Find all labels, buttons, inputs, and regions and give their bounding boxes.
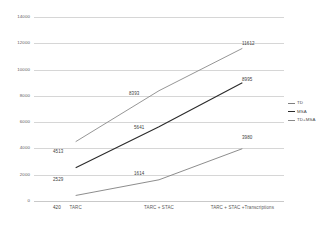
y-axis-tick-label: 0 xyxy=(27,199,30,203)
y-axis-tick-label: 12000 xyxy=(17,41,30,45)
y-axis-tick-label: 6000 xyxy=(20,120,30,124)
data-label: 4513 xyxy=(53,150,63,155)
data-label: 8995 xyxy=(242,78,252,83)
y-axis-tick-label: 10000 xyxy=(17,67,30,71)
legend-item-msa[interactable]: MSA xyxy=(288,110,316,114)
x-axis-tick-label: TARC xyxy=(69,206,81,211)
series-line-msa xyxy=(76,83,243,168)
legend-swatch-icon xyxy=(288,111,295,112)
x-axis-line: 0 xyxy=(34,201,284,202)
legend-label: TD+MSA xyxy=(297,118,316,122)
legend-label: TD xyxy=(297,101,303,105)
data-label: 11612 xyxy=(242,42,255,47)
plot-area: 14000 12000 10000 8000 6000 4000 2000 0 xyxy=(34,17,284,201)
data-label: 420 xyxy=(53,206,61,211)
legend-item-td[interactable]: TD xyxy=(288,101,316,105)
legend-swatch-icon xyxy=(288,103,295,104)
data-label: 5641 xyxy=(134,126,144,131)
x-axis-tick-label: TARC + STAC xyxy=(144,206,174,211)
legend-item-td-msa[interactable]: TD+MSA xyxy=(288,118,316,122)
series-line-td-msa xyxy=(76,48,243,141)
legend-swatch-icon xyxy=(288,120,295,121)
data-label: 1614 xyxy=(134,172,144,177)
y-axis-tick-label: 14000 xyxy=(17,15,30,19)
y-axis-tick-label: 4000 xyxy=(20,146,30,150)
x-axis-tick-label: TARC + STAC +Transcriptions xyxy=(211,206,274,211)
data-label: 2529 xyxy=(53,178,63,183)
data-label: 8393 xyxy=(129,92,139,97)
y-axis-tick-label: 2000 xyxy=(20,173,30,177)
data-label: 3980 xyxy=(242,136,252,141)
y-axis-tick-label: 8000 xyxy=(20,94,30,98)
legend: TD MSA TD+MSA xyxy=(288,101,316,123)
legend-label: MSA xyxy=(297,110,307,114)
line-chart: 14000 12000 10000 8000 6000 4000 2000 0 xyxy=(0,0,335,226)
